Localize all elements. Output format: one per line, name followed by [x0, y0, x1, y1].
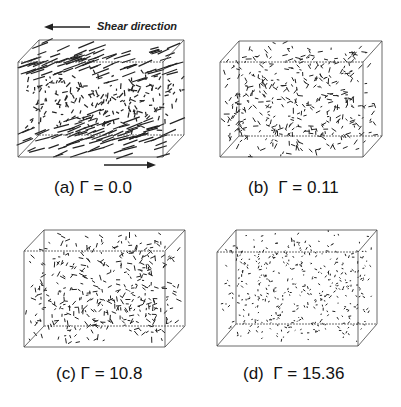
- panel-a: [17, 39, 185, 159]
- panel-d: [217, 230, 377, 346]
- panel-b: [220, 41, 382, 157]
- shear-direction-label: Shear direction: [97, 20, 177, 32]
- caption-a: (a) Γ = 0.0: [54, 178, 132, 198]
- caption-b: (b) Γ = 0.11: [248, 178, 339, 198]
- shear-arrow-bottom: [104, 162, 156, 169]
- figure-canvas: [0, 0, 401, 407]
- caption-d: (d) Γ = 15.36: [243, 364, 345, 384]
- caption-c: (c) Γ = 10.8: [56, 364, 142, 384]
- panel-c: [24, 230, 185, 347]
- shear-arrow-top: [44, 24, 90, 31]
